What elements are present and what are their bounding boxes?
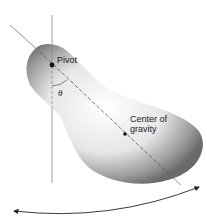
cg-label-line2: gravity	[130, 124, 157, 134]
swing-arrow	[14, 187, 199, 214]
pendulum-diagram: Pivot θ Center of gravity	[0, 0, 207, 219]
theta-label: θ	[58, 88, 63, 98]
cg-label-line1: Center of	[130, 114, 168, 124]
pivot-dot	[50, 63, 55, 68]
center-of-gravity-dot	[123, 132, 127, 136]
pivot-label: Pivot	[57, 55, 78, 65]
axis-line-upper	[10, 25, 40, 52]
